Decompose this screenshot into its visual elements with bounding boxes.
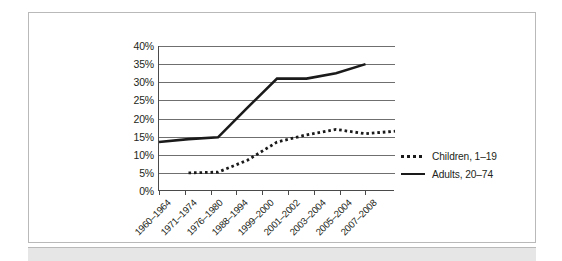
- solid-line-swatch-icon: [401, 169, 425, 179]
- y-tick-label-20: 20%: [134, 113, 154, 125]
- chart-screenshot: 40% 35% 30% 25% 20% 15% 10% 5%: [0, 0, 562, 261]
- y-tick-label-0: 0%: [139, 185, 154, 197]
- figure-frame: 40% 35% 30% 25% 20% 15% 10% 5%: [28, 12, 536, 243]
- legend-item-adults: Adults, 20–74: [401, 165, 541, 183]
- legend-label-children: Children, 1–19: [432, 151, 497, 162]
- y-tick-label-5: 5%: [139, 167, 154, 179]
- footer-bar: [28, 247, 536, 261]
- y-tick-label-15: 15%: [134, 131, 154, 143]
- legend-label-adults: Adults, 20–74: [432, 169, 493, 180]
- legend: Children, 1–19 Adults, 20–74: [401, 147, 541, 183]
- y-tick-label-10: 10%: [134, 149, 154, 161]
- plot-area: 40% 35% 30% 25% 20% 15% 10% 5%: [158, 46, 394, 191]
- y-tick-label-30: 30%: [134, 76, 154, 88]
- legend-item-children: Children, 1–19: [401, 147, 541, 165]
- gridline-0: 0%: [159, 191, 395, 192]
- series-overlay: [159, 46, 395, 191]
- y-tick-label-40: 40%: [134, 40, 154, 52]
- dotted-line-swatch-icon: [401, 151, 425, 161]
- y-tick-label-35: 35%: [134, 58, 154, 70]
- y-tick-label-25: 25%: [134, 94, 154, 106]
